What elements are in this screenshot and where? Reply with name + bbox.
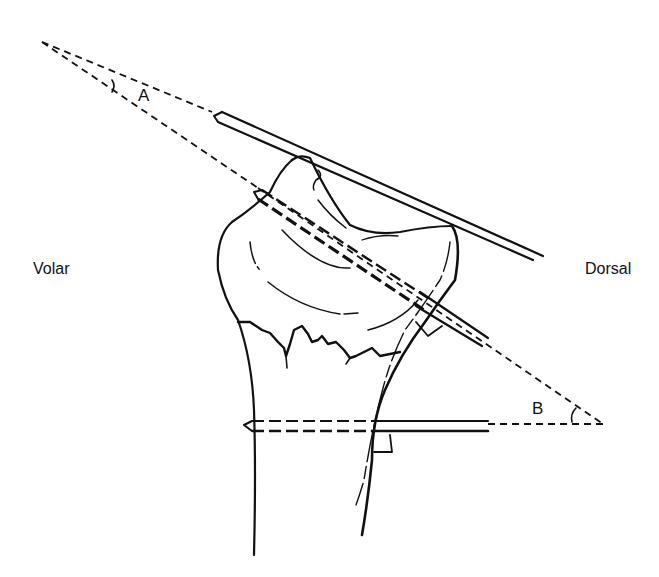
- diagram-canvas: Volar Dorsal A B: [0, 0, 659, 577]
- angle-a-lines: [42, 42, 258, 188]
- right-angle-marker-lower: [374, 435, 392, 452]
- volar-label: Volar: [33, 261, 69, 277]
- angle-a-arc: [112, 80, 114, 92]
- middle-k-wire: [254, 190, 488, 346]
- upper-k-wire: [214, 112, 543, 260]
- lower-k-wire: [244, 421, 488, 452]
- distal-radius-bone: [218, 156, 458, 555]
- distal-radius-diagram: [0, 0, 659, 577]
- angle-a-label: A: [138, 87, 149, 104]
- fracture-line: [238, 322, 400, 368]
- angle-b-label: B: [532, 400, 543, 417]
- dorsal-label: Dorsal: [585, 261, 631, 277]
- angle-b-arc: [572, 408, 577, 422]
